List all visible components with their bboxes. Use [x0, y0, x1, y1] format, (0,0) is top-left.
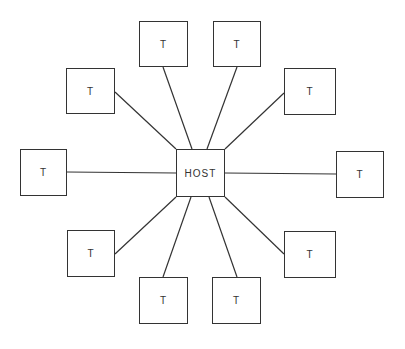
terminal-label: T [306, 249, 313, 260]
connection-line [225, 93, 284, 149]
connection-line [225, 173, 336, 174]
terminal-label: T [87, 248, 94, 259]
terminal-label: T [306, 86, 313, 97]
connection-line [225, 197, 284, 254]
host-node: HOST [176, 149, 225, 197]
connection-line [163, 197, 191, 277]
terminal-label: T [160, 39, 167, 50]
terminal-node: T [284, 231, 336, 278]
terminal-node: T [66, 68, 115, 114]
terminal-label: T [40, 167, 47, 178]
connection-line [67, 172, 176, 173]
terminal-node: T [67, 230, 115, 277]
terminal-label: T [233, 295, 240, 306]
connection-line [115, 92, 176, 149]
terminal-label: T [233, 39, 240, 50]
terminal-node: T [212, 277, 261, 324]
terminal-node: T [139, 21, 188, 67]
terminal-label: T [356, 169, 363, 180]
connection-line [207, 67, 237, 149]
terminal-node: T [336, 151, 384, 198]
terminal-label: T [160, 295, 167, 306]
terminal-label: T [87, 86, 94, 97]
terminal-node: T [284, 68, 336, 115]
connection-line [163, 67, 192, 149]
connection-line [209, 197, 237, 277]
terminal-node: T [213, 21, 261, 67]
connection-line [115, 197, 176, 254]
terminal-node: T [139, 277, 188, 324]
host-label: HOST [185, 168, 217, 179]
terminal-node: T [20, 149, 67, 196]
